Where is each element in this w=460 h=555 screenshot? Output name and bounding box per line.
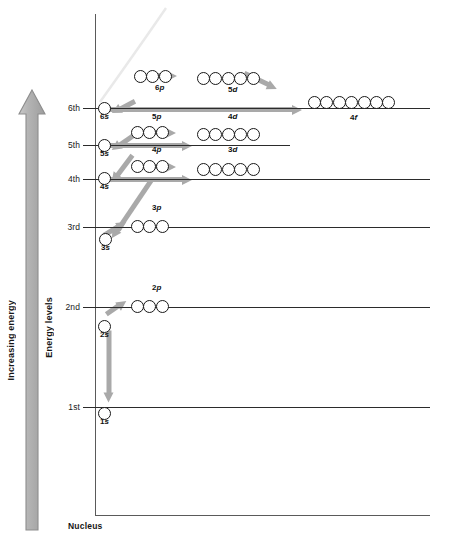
- orbital-circle: [222, 163, 235, 176]
- energy-level-line: [95, 145, 290, 146]
- orbital-subshell-letter: p: [156, 283, 161, 292]
- arrow-6s-4f: [109, 104, 302, 115]
- orbital-circle: [333, 96, 346, 109]
- energy-level-diagram: Increasing energy Energy levels Nucleus …: [0, 0, 460, 555]
- orbital-label-2p: 2p: [152, 283, 161, 292]
- orbital-label-4p: 4p: [152, 145, 161, 154]
- energy-level-label: 6th: [55, 103, 80, 113]
- orbital-subshell-letter: s: [104, 112, 108, 121]
- orbital-circle: [247, 72, 260, 85]
- orbital-subshell-letter: s: [105, 243, 109, 252]
- orbital-label-2s: 2s: [100, 330, 109, 339]
- orbital-circle: [143, 220, 156, 233]
- increasing-energy-label: Increasing energy: [6, 300, 16, 380]
- nucleus-label: Nucleus: [68, 521, 102, 531]
- energy-level-tick: [83, 179, 95, 180]
- energy-level-tick: [83, 227, 95, 228]
- energy-level-label: 3rd: [55, 222, 80, 232]
- arrow-head: [104, 392, 114, 402]
- orbital-circle: [234, 72, 247, 85]
- orbital-label-4d: 4d: [228, 112, 237, 121]
- energy-level-tick: [83, 108, 95, 109]
- orbital-label-6p: 6p: [155, 83, 164, 92]
- energy-level-label: 5th: [55, 140, 80, 150]
- orbital-subshell-letter: p: [159, 83, 164, 92]
- orbital-circle: [222, 72, 235, 85]
- orbital-circle: [197, 72, 210, 85]
- orbital-label-5d: 5d: [228, 85, 237, 94]
- orbital-circle: [370, 96, 383, 109]
- orbital-label-3p: 3p: [152, 203, 161, 212]
- energy-level-label: 4th: [55, 174, 80, 184]
- orbital-label-4s: 4s: [100, 182, 109, 191]
- orbital-circle: [247, 163, 260, 176]
- orbital-subshell-letter: f: [354, 113, 357, 122]
- orbital-circle: [247, 128, 260, 141]
- nucleus-baseline: [95, 515, 430, 516]
- orbital-circle: [156, 126, 169, 139]
- orbital-circle: [131, 126, 144, 139]
- orbital-circle: [143, 300, 156, 313]
- orbital-circle: [146, 70, 159, 83]
- orbital-circle: [197, 163, 210, 176]
- orbital-circle: [234, 128, 247, 141]
- energy-level-tick: [83, 307, 95, 308]
- energy-level-label: 1st: [55, 402, 80, 412]
- scan-artifact: [88, 6, 218, 106]
- orbital-circle: [308, 96, 321, 109]
- orbital-circle: [131, 300, 144, 313]
- energy-levels-label: Energy levels: [44, 297, 54, 358]
- orbital-label-5s: 5s: [100, 149, 109, 158]
- orbital-circle: [131, 220, 144, 233]
- arrow-head: [292, 105, 302, 115]
- orbital-subshell-letter: s: [104, 182, 108, 191]
- orbital-subshell-letter: d: [232, 112, 237, 121]
- orbital-circle: [156, 300, 169, 313]
- orbital-label-4f: 4f: [350, 113, 357, 122]
- orbital-circle: [209, 128, 222, 141]
- orbital-circle: [159, 70, 172, 83]
- orbital-circle: [134, 70, 147, 83]
- orbital-circle: [358, 96, 371, 109]
- energy-level-line: [95, 407, 430, 408]
- orbital-circle: [234, 163, 247, 176]
- orbital-subshell-letter: p: [156, 145, 161, 154]
- orbital-circle: [131, 160, 144, 173]
- orbital-label-3d: 3d: [228, 145, 237, 154]
- orbital-subshell-letter: p: [156, 203, 161, 212]
- orbital-subshell-letter: d: [232, 145, 237, 154]
- orbital-circle: [156, 160, 169, 173]
- arrow-shaft: [107, 330, 112, 393]
- orbital-label-6s: 6s: [100, 112, 109, 121]
- orbital-subshell-letter: s: [104, 417, 108, 426]
- increasing-energy-arrow: [17, 88, 47, 532]
- energy-level-tick: [83, 145, 95, 146]
- arrow-1s-2s: [104, 330, 115, 402]
- orbital-circle: [209, 72, 222, 85]
- energy-level-label: 2nd: [55, 302, 80, 312]
- orbital-circle: [197, 128, 210, 141]
- orbital-circle: [156, 220, 169, 233]
- arrow-shaft: [105, 303, 120, 316]
- chart-vertical-axis: [95, 14, 96, 515]
- orbital-label-5p: 5p: [152, 112, 161, 121]
- orbital-subshell-letter: p: [156, 112, 161, 121]
- energy-level-line: [95, 108, 430, 109]
- orbital-label-3s: 3s: [101, 243, 110, 252]
- orbital-subshell-letter: s: [104, 330, 108, 339]
- orbital-label-1s: 1s: [100, 417, 109, 426]
- orbital-subshell-letter: s: [104, 149, 108, 158]
- energy-level-tick: [83, 407, 95, 408]
- orbital-subshell-letter: d: [232, 85, 237, 94]
- orbital-circle: [222, 128, 235, 141]
- orbital-circle: [209, 163, 222, 176]
- energy-level-line: [95, 179, 430, 180]
